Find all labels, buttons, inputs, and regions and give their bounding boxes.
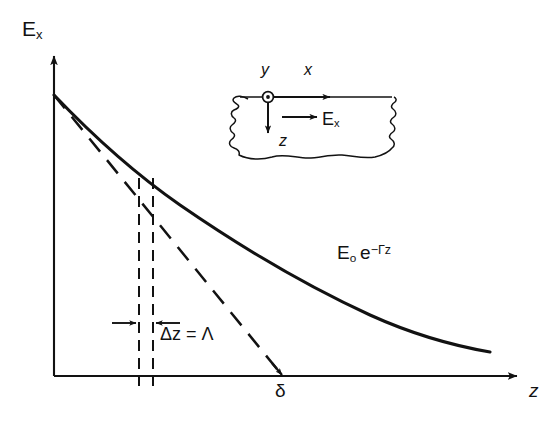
inset-y-axis-label: y	[261, 62, 269, 78]
skin-depth-label: δ	[275, 381, 286, 400]
z-axis-label: z	[529, 381, 539, 400]
inset-y-axis-center-dot	[266, 95, 270, 99]
inset-z-axis-label: z	[279, 133, 287, 149]
axes-group	[54, 56, 517, 376]
exponential-decay-curve	[54, 95, 490, 352]
interval-label: Δz = Λ	[160, 325, 214, 343]
inset-coordinate-diagram	[230, 92, 397, 159]
field-decay-figure	[0, 0, 555, 423]
skin-depth-arrow-head	[272, 363, 282, 375]
y-axis-label: Ex	[22, 18, 43, 41]
curve-equation-label: Eo e−Γz	[337, 243, 391, 263]
material-slab-outline	[230, 96, 397, 159]
inset-x-axis-label: x	[304, 62, 312, 78]
inset-field-label: Ex	[322, 110, 340, 130]
